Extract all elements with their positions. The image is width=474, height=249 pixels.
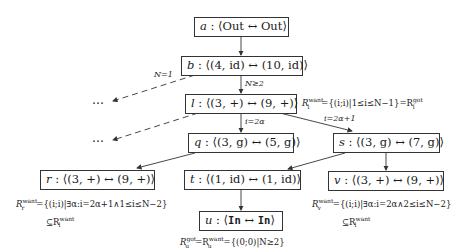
node-r-name: r	[46, 172, 52, 186]
edge-l-dots2	[113, 113, 198, 140]
node-a-name: a	[200, 19, 207, 33]
node-b-name: b	[187, 58, 194, 72]
annotation-l: Rwantl={(i;i)|1≤i≤N−1}=Rgotl	[302, 94, 415, 112]
node-u-in-left: In	[228, 214, 241, 226]
ellipsis-2: …	[92, 131, 105, 145]
node-q-name: q	[194, 135, 201, 149]
annotation-v: Rwantv={(i;i)|∃α:i=2α∧2≤i≤N−2} ⊆Rwantl	[312, 195, 451, 230]
edge-label-i-eq-2alpha: i=2α	[245, 117, 265, 127]
edge-label-i-eq-2alpha-plus-1: i=2α+1	[324, 114, 356, 124]
node-q: q : ⟨(3, g) ↔ (5, g)⟩	[188, 133, 294, 153]
node-t-label: ⟨(1, id) ↔ (1, id)⟩	[206, 172, 301, 186]
node-l: l : ⟨(3, +) ↔ (9, +)⟩	[185, 94, 297, 114]
node-v: v : ⟨(3, +) ↔ (9, +)⟩	[328, 171, 444, 191]
edge-label-n-eq-1: N=1	[154, 70, 173, 80]
edge-q-r	[137, 153, 195, 168]
node-a-label: ⟨Out ↔ Out⟩	[218, 19, 287, 33]
edge-label-n-ge-2: N≥2	[245, 79, 264, 89]
node-q-label: ⟨(3, g) ↔ (5, g)⟩	[213, 135, 301, 149]
ellipsis-1: …	[92, 93, 105, 107]
node-s-label: ⟨(3, g) ↔ (7, g)⟩	[356, 135, 444, 149]
node-u-in-right: In	[258, 214, 271, 226]
node-t-name: t	[190, 172, 195, 186]
node-a: a : ⟨Out ↔ Out⟩	[194, 17, 289, 37]
node-u-name: u	[205, 213, 212, 227]
node-l-name: l	[191, 96, 195, 110]
node-l-label: ⟨(3, +) ↔ (9, +)⟩	[206, 96, 298, 110]
node-v-label: ⟨(3, +) ↔ (9, +)⟩	[352, 173, 444, 187]
node-v-name: v	[334, 173, 341, 187]
annotation-u: Rgotu=Rwantu={(0;0)|N≥2}	[180, 233, 285, 249]
node-r: r : ⟨(3, +) ↔ (9, +)⟩	[40, 170, 155, 190]
edge-s-t	[288, 153, 345, 169]
node-u: u : ⟨In ↔ In⟩	[199, 211, 283, 231]
annotation-r: Rwantr={(i;i)|∃α:i=2α+1∧1≤i≤N−2} ⊆Rwantl	[16, 195, 167, 230]
node-b: b : ⟨(4, id) ↔ (10, id)⟩	[181, 56, 303, 76]
node-t: t : ⟨(1, id) ↔ (1, id)⟩	[184, 170, 301, 190]
node-b-label: ⟨(4, id) ↔ (10, id)⟩	[206, 58, 309, 72]
node-s: s : ⟨(3, g) ↔ (7, g)⟩	[333, 133, 440, 153]
node-r-label: ⟨(3, +) ↔ (9, +)⟩	[63, 172, 155, 186]
node-s-name: s	[339, 135, 345, 149]
